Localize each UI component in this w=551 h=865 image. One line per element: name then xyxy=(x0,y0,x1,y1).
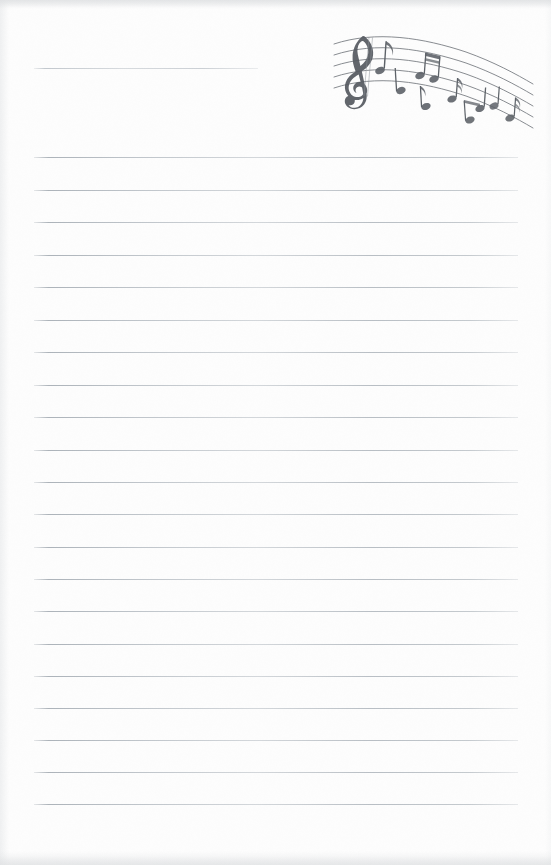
ruled-line xyxy=(34,772,518,773)
ruled-line xyxy=(34,514,518,515)
eighth-note-5 xyxy=(474,88,485,114)
ruled-line xyxy=(34,740,518,741)
ruled-line xyxy=(34,676,518,677)
ruled-line xyxy=(34,804,518,805)
eighth-note-7 xyxy=(489,87,500,111)
eighth-note-3 xyxy=(420,86,431,111)
ruled-line xyxy=(34,190,518,191)
ruled-line xyxy=(34,320,518,321)
ruled-line xyxy=(34,547,518,548)
ruled-line xyxy=(34,579,518,580)
ruled-line xyxy=(34,287,518,288)
music-staff-graphic xyxy=(328,24,538,136)
ruled-line xyxy=(34,417,518,418)
ruled-line xyxy=(34,611,518,612)
beamed-pair-1 xyxy=(414,52,440,84)
ruled-line xyxy=(34,385,518,386)
ruled-line xyxy=(34,352,518,353)
ruled-line xyxy=(34,644,518,645)
beamed-pair-2 xyxy=(464,100,480,125)
ruled-line xyxy=(34,482,518,483)
ruled-line xyxy=(34,157,518,158)
notepaper-page xyxy=(0,0,551,865)
ruled-line xyxy=(34,450,518,451)
ruled-line xyxy=(34,68,258,69)
ruled-line xyxy=(34,222,518,223)
ruled-line xyxy=(34,708,518,709)
ruled-line xyxy=(34,255,518,256)
